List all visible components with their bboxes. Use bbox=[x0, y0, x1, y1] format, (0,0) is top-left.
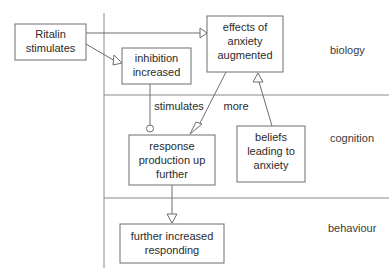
edge-label-more: more bbox=[223, 100, 248, 112]
box-ritalin[interactable]: Ritalin stimulates bbox=[15, 24, 86, 60]
box-effects-line-1: effects of bbox=[223, 21, 268, 33]
edge-beliefs-to-effects bbox=[259, 82, 272, 126]
box-further-responding-line-1: further increased bbox=[131, 230, 214, 242]
diagram-canvas: Ritalin stimulates inhibition increased … bbox=[0, 0, 389, 278]
level-label-biology: biology bbox=[330, 44, 365, 56]
inhibition-circle-endpoint bbox=[147, 125, 154, 132]
box-ritalin-line-2: stimulates bbox=[26, 42, 76, 54]
arrowhead-ritalin-to-inhibition bbox=[113, 55, 122, 65]
box-response-line-3: further bbox=[156, 168, 188, 180]
box-beliefs-line-2: leading to bbox=[247, 145, 295, 157]
edge-ritalin-to-inhibition bbox=[86, 44, 115, 61]
box-beliefs-line-3: anxiety bbox=[254, 159, 289, 171]
box-inhibition-line-2: increased bbox=[133, 66, 181, 78]
box-further-responding-line-2: responding bbox=[145, 244, 199, 256]
level-label-cognition: cognition bbox=[330, 132, 374, 144]
box-effects-line-2: anxiety bbox=[228, 35, 263, 47]
box-beliefs[interactable]: beliefs leading to anxiety bbox=[237, 126, 305, 182]
box-response-line-1: response bbox=[149, 140, 194, 152]
box-further-responding[interactable]: further increased responding bbox=[120, 224, 224, 263]
level-label-behaviour: behaviour bbox=[328, 222, 377, 234]
box-effects[interactable]: effects of anxiety augmented bbox=[207, 16, 283, 72]
box-beliefs-line-1: beliefs bbox=[255, 131, 287, 143]
box-effects-line-3: augmented bbox=[217, 49, 272, 61]
diagram-svg: Ritalin stimulates inhibition increased … bbox=[0, 0, 389, 278]
box-response-line-2: production up bbox=[139, 154, 206, 166]
box-inhibition-line-1: inhibition bbox=[135, 52, 178, 64]
box-inhibition[interactable]: inhibition increased bbox=[122, 48, 191, 84]
box-ritalin-line-1: Ritalin bbox=[35, 28, 66, 40]
edge-label-stimulates: stimulates bbox=[154, 100, 204, 112]
arrowhead-beliefs-to-effects bbox=[253, 73, 263, 82]
box-response[interactable]: response production up further bbox=[129, 135, 215, 185]
arrowhead-response-to-further bbox=[167, 214, 177, 223]
arrowhead-ritalin-to-effects bbox=[200, 28, 207, 38]
arrowhead-effects-to-response bbox=[190, 122, 202, 134]
